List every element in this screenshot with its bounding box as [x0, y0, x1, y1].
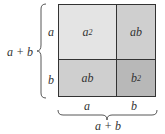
square-a-plus-b: a2 ab ab b2 — [58, 4, 156, 97]
bottom-brace-icon — [57, 109, 158, 121]
cell-a-squared: a2 — [59, 5, 117, 60]
cell-ab-top: ab — [117, 5, 155, 60]
left-label-b: b — [48, 74, 54, 86]
cell-b-squared: b2 — [117, 60, 155, 96]
left-brace-icon — [36, 3, 48, 99]
bottom-label-total: a + b — [95, 120, 121, 132]
left-label-a: a — [48, 26, 54, 38]
cell-ab-bottom: ab — [59, 60, 117, 96]
left-label-total: a + b — [7, 46, 33, 58]
